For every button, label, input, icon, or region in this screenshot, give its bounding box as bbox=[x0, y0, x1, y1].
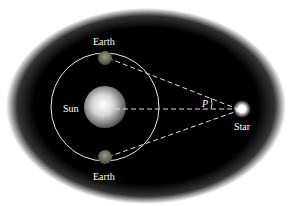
star-label: Star bbox=[234, 121, 251, 132]
parallax-diagram: Earth Earth Sun Star P bbox=[0, 0, 289, 206]
angle-label: P bbox=[201, 98, 208, 109]
sun-icon bbox=[84, 86, 126, 128]
sun-label: Sun bbox=[63, 103, 79, 114]
earth-top-label: Earth bbox=[93, 36, 115, 47]
earth-bottom-icon bbox=[98, 150, 112, 164]
earth-top-icon bbox=[98, 51, 112, 65]
earth-bottom-label: Earth bbox=[93, 171, 115, 182]
star-icon bbox=[239, 106, 246, 113]
